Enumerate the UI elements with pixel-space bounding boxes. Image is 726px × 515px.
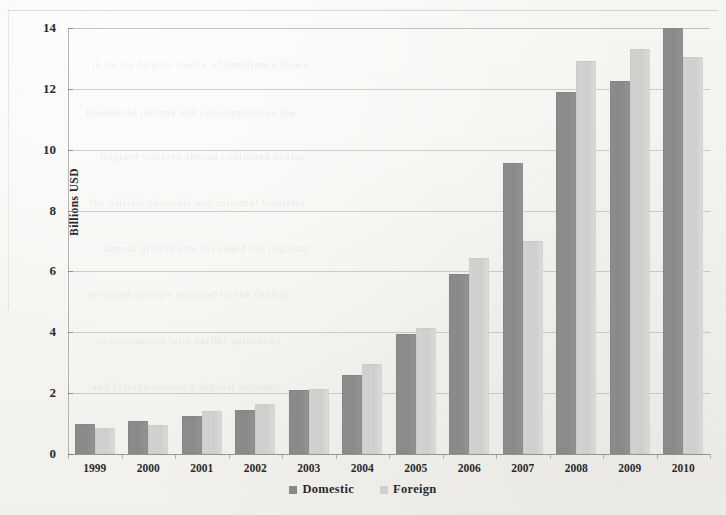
legend-label-foreign: Foreign [393, 482, 437, 497]
x-axis-tick-mark [229, 454, 230, 459]
chart-legend: Domestic Foreign [0, 482, 726, 497]
y-axis-tick-mark [68, 393, 73, 394]
bar-foreign-2004[interactable] [362, 364, 382, 454]
bar-group [663, 28, 703, 454]
bar-domestic-2004[interactable] [342, 375, 362, 454]
x-axis-tick-label: 2006 [439, 462, 499, 474]
y-axis-tick-label: 14 [22, 20, 56, 36]
x-axis-tick-label: 2004 [332, 462, 392, 474]
bar-domestic-2009[interactable] [610, 81, 630, 454]
x-axis-tick-mark [657, 454, 658, 459]
legend-item-foreign[interactable]: Foreign [380, 482, 437, 497]
bar-group [342, 28, 382, 454]
x-axis-tick-label: 2002 [225, 462, 285, 474]
bar-group [128, 28, 168, 454]
y-axis-tick-mark [68, 89, 73, 90]
bar-foreign-2003[interactable] [309, 389, 329, 454]
y-axis-tick-label: 0 [22, 446, 56, 462]
bar-group [503, 28, 543, 454]
bar-foreign-2010[interactable] [683, 57, 703, 454]
bar-group [556, 28, 596, 454]
bar-domestic-2005[interactable] [396, 334, 416, 454]
x-axis-tick-mark [175, 454, 176, 459]
page-left-rule [8, 10, 9, 310]
x-axis-tick-label: 2010 [653, 462, 713, 474]
x-axis-tick-label: 2009 [600, 462, 660, 474]
x-axis-tick-mark [710, 454, 711, 459]
y-axis-tick-label: 6 [22, 263, 56, 279]
bar-group [449, 28, 489, 454]
bar-group [75, 28, 115, 454]
y-axis-tick-mark [68, 211, 73, 212]
x-axis-tick-mark [68, 454, 69, 459]
legend-label-domestic: Domestic [302, 482, 354, 497]
x-axis-tick-label: 2001 [172, 462, 232, 474]
bar-domestic-2002[interactable] [235, 410, 255, 454]
bar-domestic-2010[interactable] [663, 28, 683, 454]
bar-domestic-2006[interactable] [449, 274, 469, 454]
x-axis-tick-mark [336, 454, 337, 459]
x-axis-tick-mark [122, 454, 123, 459]
bar-foreign-2002[interactable] [255, 404, 275, 454]
bar-foreign-2000[interactable] [148, 425, 168, 454]
bar-group [182, 28, 222, 454]
bar-domestic-2001[interactable] [182, 416, 202, 454]
domestic-swatch-icon [289, 486, 297, 494]
x-axis-tick-label: 2000 [118, 462, 178, 474]
foreign-swatch-icon [380, 486, 388, 494]
bar-chart: to be the largest source of remittance f… [0, 0, 726, 515]
x-axis-tick-mark [282, 454, 283, 459]
x-axis-tick-mark [443, 454, 444, 459]
bar-domestic-2007[interactable] [503, 163, 523, 454]
page-top-rule [8, 10, 718, 11]
plot-area [68, 28, 710, 454]
y-axis-tick-mark [68, 332, 73, 333]
bar-foreign-1999[interactable] [95, 428, 115, 454]
y-axis-ticks: 02468101214 [22, 28, 56, 454]
x-axis-tick-mark [389, 454, 390, 459]
x-axis-tick-mark [550, 454, 551, 459]
y-axis-tick-mark [68, 28, 73, 29]
y-axis-tick-label: 8 [22, 203, 56, 219]
bar-foreign-2006[interactable] [469, 258, 489, 454]
x-axis-tick-label: 2008 [546, 462, 606, 474]
bar-domestic-2003[interactable] [289, 390, 309, 454]
y-axis-tick-label: 2 [22, 385, 56, 401]
y-axis-tick-label: 10 [22, 142, 56, 158]
bar-foreign-2001[interactable] [202, 411, 222, 454]
bar-group [610, 28, 650, 454]
bar-foreign-2005[interactable] [416, 328, 436, 454]
bar-foreign-2007[interactable] [523, 241, 543, 454]
bar-domestic-2000[interactable] [128, 421, 148, 454]
x-axis-tick-label: 1999 [65, 462, 125, 474]
legend-item-domestic[interactable]: Domestic [289, 482, 354, 497]
bar-group [396, 28, 436, 454]
y-axis-line [68, 28, 69, 454]
bar-foreign-2008[interactable] [576, 61, 596, 454]
x-axis-tick-mark [603, 454, 604, 459]
x-axis-tick-label: 2007 [493, 462, 553, 474]
y-axis-tick-mark [68, 150, 73, 151]
bar-domestic-2008[interactable] [556, 92, 576, 454]
x-axis-tick-label: 2003 [279, 462, 339, 474]
bar-group [289, 28, 329, 454]
x-axis-tick-label: 2005 [386, 462, 446, 474]
bar-domestic-1999[interactable] [75, 424, 95, 454]
bar-foreign-2009[interactable] [630, 49, 650, 454]
x-axis-tick-mark [496, 454, 497, 459]
y-axis-tick-mark [68, 271, 73, 272]
y-axis-tick-label: 12 [22, 81, 56, 97]
y-axis-tick-label: 4 [22, 324, 56, 340]
bar-group [235, 28, 275, 454]
